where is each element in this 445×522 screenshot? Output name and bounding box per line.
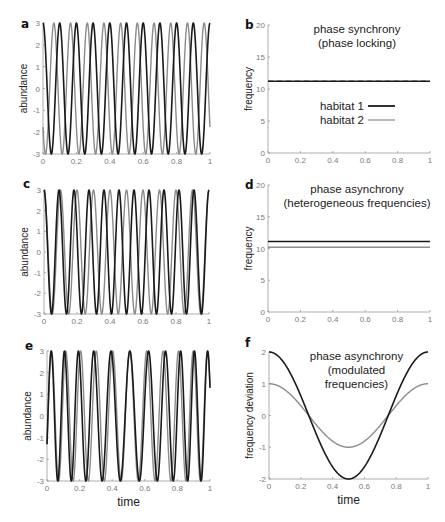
y-tick-label: 0 bbox=[261, 308, 266, 317]
x-tick-label: 0.6 bbox=[138, 157, 150, 166]
x-tick-label: 0.4 bbox=[104, 157, 116, 166]
panel-title: phase synchrony bbox=[314, 23, 401, 35]
panel-subtitle: (modulated bbox=[328, 364, 386, 376]
y-tick-label: -1 bbox=[33, 106, 41, 115]
x-tick-label: 0.4 bbox=[107, 484, 119, 493]
x-axis-label: time bbox=[337, 493, 360, 507]
x-tick-label: 0.2 bbox=[295, 482, 307, 491]
x-tick-label: 0.4 bbox=[327, 482, 339, 491]
y-axis-label: abundance bbox=[18, 63, 29, 113]
y-tick-label: 5 bbox=[261, 276, 266, 285]
legend: habitat 1habitat 2 bbox=[320, 100, 395, 126]
y-tick-label: -2 bbox=[34, 289, 42, 298]
y-tick-label: -3 bbox=[37, 477, 45, 486]
y-tick-label: 1 bbox=[36, 63, 41, 72]
y-tick-label: 10 bbox=[256, 85, 265, 94]
panel-b: 00.20.40.60.8105101520frequencybphase sy… bbox=[243, 18, 433, 165]
y-tick-label: -2 bbox=[37, 455, 45, 464]
x-tick-label: 0.8 bbox=[172, 484, 184, 493]
x-tick-label: 0.2 bbox=[295, 315, 307, 324]
y-tick-label: -1 bbox=[37, 434, 45, 443]
x-tick-label: 0.2 bbox=[295, 156, 307, 165]
panel-d: 00.20.40.60.8105101520frequencydphase as… bbox=[243, 178, 433, 324]
panel-label: f bbox=[245, 336, 251, 350]
x-tick-label: 0 bbox=[42, 317, 47, 326]
panel-label: d bbox=[245, 178, 254, 192]
panel-a: 00.20.40.60.81-3-2-10123abundancea bbox=[18, 17, 213, 166]
y-axis-label: frequency deviation bbox=[244, 372, 255, 459]
y-tick-label: -1 bbox=[34, 269, 42, 278]
x-tick-label: 0.4 bbox=[327, 156, 339, 165]
x-tick-label: 1 bbox=[428, 315, 433, 324]
y-axis-label: frequency bbox=[243, 227, 254, 271]
x-tick-label: 1 bbox=[207, 317, 212, 326]
x-tick-label: 0.6 bbox=[139, 484, 151, 493]
y-tick-label: 15 bbox=[256, 53, 265, 62]
panel-subtitle: (phase locking) bbox=[318, 37, 396, 49]
y-tick-label: 2 bbox=[262, 348, 267, 357]
panel-label: e bbox=[25, 339, 33, 353]
panel-title: phase asynchrony bbox=[310, 350, 404, 362]
y-tick-label: 10 bbox=[256, 245, 265, 254]
legend-label: habitat 2 bbox=[320, 114, 364, 126]
y-tick-label: 3 bbox=[40, 347, 45, 356]
x-tick-label: 0 bbox=[266, 156, 271, 165]
x-tick-label: 1 bbox=[208, 157, 213, 166]
series-habitat-2-line bbox=[43, 23, 210, 154]
y-tick-label: 0 bbox=[261, 149, 266, 158]
x-tick-label: 0.4 bbox=[327, 315, 339, 324]
x-tick-label: 0.2 bbox=[71, 317, 83, 326]
x-tick-label: 0.8 bbox=[392, 156, 404, 165]
y-axis-label: frequency bbox=[243, 67, 254, 111]
panel-subtitle: (heterogeneous frequencies) bbox=[283, 197, 430, 209]
y-tick-label: 0 bbox=[40, 412, 45, 421]
y-tick-label: -3 bbox=[34, 310, 42, 319]
figure: 00.20.40.60.81-3-2-10123abundancea00.20.… bbox=[0, 0, 445, 522]
y-tick-label: -3 bbox=[33, 150, 41, 159]
panel-title: phase asynchrony bbox=[310, 183, 404, 195]
y-tick-label: 2 bbox=[36, 41, 41, 50]
y-tick-label: -2 bbox=[259, 475, 267, 484]
y-tick-label: 5 bbox=[261, 117, 266, 126]
y-tick-label: 2 bbox=[37, 207, 42, 216]
y-tick-label: 3 bbox=[37, 186, 42, 195]
panel-label: a bbox=[21, 17, 29, 31]
series-habitat-1-line bbox=[44, 190, 209, 314]
panel-c: 00.20.40.60.81-3-2-10123abundancec bbox=[19, 177, 212, 326]
y-tick-label: -2 bbox=[33, 128, 41, 137]
y-tick-label: 20 bbox=[256, 21, 265, 30]
x-tick-label: 1 bbox=[208, 484, 213, 493]
x-tick-label: 0.6 bbox=[360, 315, 372, 324]
y-tick-label: 1 bbox=[37, 227, 42, 236]
x-tick-label: 0 bbox=[266, 315, 271, 324]
x-tick-label: 0.8 bbox=[171, 157, 183, 166]
x-tick-label: 0 bbox=[41, 157, 46, 166]
panel-label: c bbox=[23, 177, 30, 191]
legend-label: habitat 1 bbox=[320, 100, 364, 112]
panel-subtitle-2: frequencies) bbox=[325, 378, 388, 390]
x-tick-label: 1 bbox=[428, 156, 433, 165]
panel-e: 00.20.40.60.81-3-2-10123abundancetimee bbox=[22, 339, 213, 509]
panel-label: b bbox=[245, 18, 254, 32]
x-tick-label: 0.8 bbox=[391, 482, 403, 491]
x-tick-label: 0 bbox=[267, 482, 272, 491]
panel-f: 00.20.40.60.81-2-1012frequency deviation… bbox=[244, 336, 431, 507]
x-tick-label: 0.6 bbox=[359, 482, 371, 491]
y-tick-label: 0 bbox=[262, 412, 267, 421]
y-axis-label: abundance bbox=[22, 391, 33, 441]
x-tick-label: 0.2 bbox=[74, 484, 86, 493]
x-tick-label: 0.4 bbox=[104, 317, 116, 326]
y-axis-label: abundance bbox=[19, 227, 30, 277]
x-tick-label: 0.2 bbox=[71, 157, 83, 166]
y-tick-label: 0 bbox=[36, 85, 41, 94]
y-tick-label: 3 bbox=[36, 19, 41, 28]
x-tick-label: 1 bbox=[426, 482, 431, 491]
y-tick-label: 20 bbox=[256, 181, 265, 190]
x-tick-label: 0.6 bbox=[360, 156, 372, 165]
y-tick-label: 15 bbox=[256, 213, 265, 222]
x-tick-label: 0.8 bbox=[170, 317, 182, 326]
y-tick-label: 1 bbox=[40, 390, 45, 399]
x-axis-label: time bbox=[117, 495, 140, 509]
y-tick-label: 0 bbox=[37, 248, 42, 257]
y-tick-label: 1 bbox=[262, 380, 267, 389]
